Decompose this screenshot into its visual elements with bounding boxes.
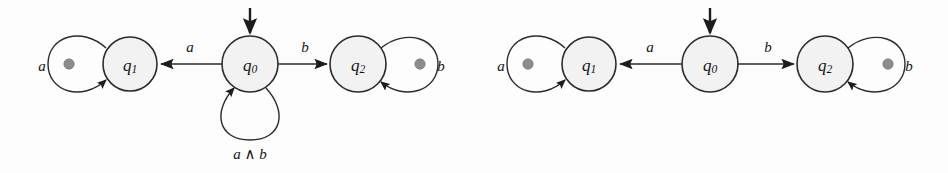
transition-q2-self-loop-right[interactable] [381, 37, 438, 92]
automata-canvas: q1 q0 q2 a b a b a ∧ b [0, 0, 948, 173]
loop-label-q0: a ∧ b [233, 146, 267, 162]
transition-label-q0-q1: a [646, 39, 654, 55]
transition-label-q0-q2: b [301, 39, 309, 55]
loop-label-q2: b [437, 58, 445, 74]
transition-q1-self-loop-left[interactable] [48, 36, 106, 92]
loop-label-q1: a [38, 58, 46, 74]
right-automaton: q1 q0 q2 a b a b [497, 8, 913, 92]
transition-q0-self-loop-bottom[interactable] [221, 88, 279, 140]
transition-label-q0-q1: a [186, 39, 194, 55]
figure-root: q1 q0 q2 a b a b a ∧ b [0, 0, 948, 173]
loop-marker-dot-q2 [883, 59, 893, 69]
transition-q1-self-loop-left[interactable] [507, 36, 565, 92]
loop-marker-dot-q2 [415, 59, 425, 69]
left-automaton: q1 q0 q2 a b a b a ∧ b [38, 8, 445, 162]
loop-label-q2: b [905, 58, 913, 74]
loop-marker-dot-q1 [523, 59, 533, 69]
loop-marker-dot-q1 [64, 59, 74, 69]
loop-label-q1: a [497, 58, 505, 74]
transition-label-q0-q2: b [764, 39, 772, 55]
transition-q2-self-loop-right[interactable] [848, 37, 905, 92]
